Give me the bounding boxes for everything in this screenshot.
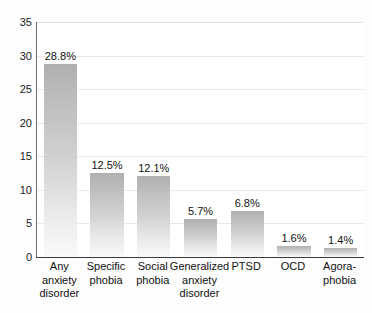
bars-layer: 28.8%12.5%12.1%5.7%6.8%1.6%1.4% — [37, 22, 364, 257]
y-axis-tick-label: 15 — [4, 151, 32, 162]
y-axis-tick-label: 0 — [4, 252, 32, 263]
bar-value-label: 12.1% — [130, 162, 177, 174]
x-axis-category-label: Agora-phobia — [309, 260, 370, 287]
bar-value-label: 1.4% — [317, 234, 364, 246]
x-axis: AnyanxietydisorderSpecificphobiaSocialph… — [36, 260, 363, 313]
x-axis-category-line: disorder — [169, 287, 230, 301]
bar — [137, 176, 170, 257]
bar — [277, 246, 310, 257]
bar — [184, 219, 217, 257]
bar-value-label: 1.6% — [271, 232, 318, 244]
bar-chart: 05101520253035 28.8%12.5%12.1%5.7%6.8%1.… — [0, 0, 372, 313]
y-axis-tick-label: 25 — [4, 84, 32, 95]
x-axis-category-line: disorder — [29, 287, 90, 301]
bar-value-label: 28.8% — [37, 50, 84, 62]
x-axis-category-line: anxiety — [169, 274, 230, 288]
y-axis-tick-label: 30 — [4, 51, 32, 62]
bar-value-label: 12.5% — [84, 159, 131, 171]
bar-value-label: 5.7% — [177, 205, 224, 217]
bar — [324, 248, 357, 257]
y-axis: 05101520253035 — [0, 0, 32, 313]
y-axis-tick-label: 10 — [4, 185, 32, 196]
y-axis-tick-label: 35 — [4, 17, 32, 28]
bar — [231, 211, 264, 257]
plot-area: 28.8%12.5%12.1%5.7%6.8%1.6%1.4% — [36, 22, 364, 258]
bar — [90, 173, 123, 257]
y-axis-tick-label: 5 — [4, 218, 32, 229]
x-axis-category-line: phobia — [309, 274, 370, 288]
x-axis-category-line: Agora- — [309, 260, 370, 274]
bar-value-label: 6.8% — [224, 197, 271, 209]
bar — [44, 64, 77, 257]
y-axis-tick-label: 20 — [4, 118, 32, 129]
